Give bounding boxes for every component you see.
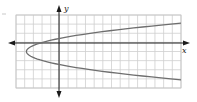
y-axis-down-arrow-icon: [57, 91, 62, 98]
x-axis-label: x: [182, 46, 187, 55]
parabola-graph: y x: [0, 0, 197, 102]
x-axis-right-arrow-icon: [183, 41, 190, 46]
y-axis-up-arrow-icon: [57, 5, 62, 12]
x-axis-left-arrow-icon: [8, 41, 15, 46]
y-axis-label: y: [63, 4, 69, 13]
